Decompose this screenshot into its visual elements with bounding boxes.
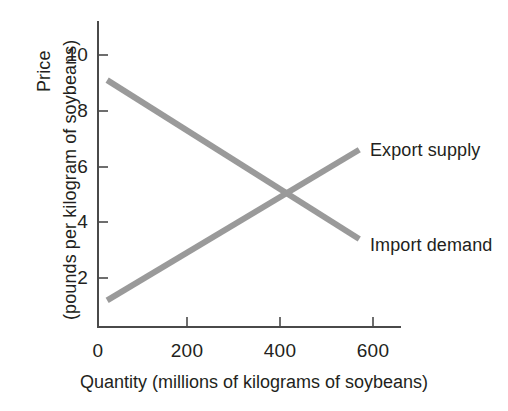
x-tick-label-0: 0 [93,340,104,362]
x-tick-label-200: 200 [171,340,203,362]
y-axis-title-line-1: Price [34,50,55,92]
series-label-import-demand: Import demand [370,235,492,256]
x-axis-title: Quantity (millions of kilograms of soybe… [0,372,508,393]
series-label-export-supply: Export supply [370,140,480,161]
series-line-export-supply [107,150,359,301]
series-line-import-demand [107,80,359,239]
y-axis-title: Price (pounds per kilogram of soybeans) [0,0,68,340]
x-tick-label-600: 600 [357,340,389,362]
supply-demand-chart: 10 8 6 4 2 0 200 400 600 Export supply I… [0,0,508,411]
x-tick-label-400: 400 [264,340,296,362]
y-axis-title-line-2: (pounds per kilogram of soybeans) [60,40,81,320]
